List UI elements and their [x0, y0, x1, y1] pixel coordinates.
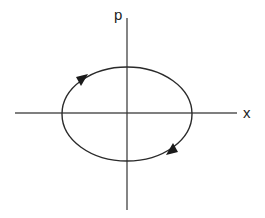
direction-arrow-upper-left: [76, 74, 88, 86]
p-axis-label: p: [114, 6, 122, 23]
phase-space-diagram: x p: [0, 0, 265, 218]
x-axis-label: x: [243, 104, 251, 121]
